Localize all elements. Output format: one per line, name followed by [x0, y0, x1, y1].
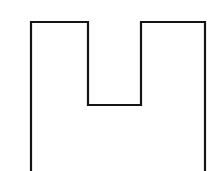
canvas-background	[0, 0, 217, 171]
line-drawing-svg	[0, 0, 217, 171]
figure-canvas	[0, 0, 217, 171]
